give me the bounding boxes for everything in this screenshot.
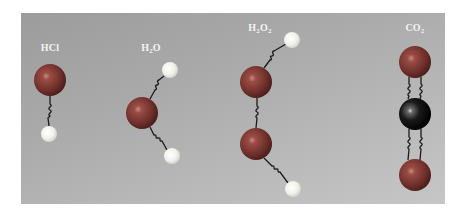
chlorine-atom [34, 64, 66, 96]
bond-spring-icon [408, 129, 410, 160]
bond-spring-icon [408, 77, 410, 99]
bond-spring-icon [48, 96, 51, 126]
bond-spring-icon [264, 44, 286, 68]
molecule-hcl [34, 64, 66, 142]
label-hcl: HCl [41, 42, 59, 53]
molecule-scene [0, 0, 468, 213]
label-text: HCl [41, 42, 59, 53]
bond-spring-icon [420, 129, 422, 160]
oxygen-atom [240, 66, 272, 98]
bond-spring-icon [256, 98, 258, 128]
oxygen-atom [240, 128, 272, 160]
hydrogen-atom [284, 32, 300, 48]
label-subscript: 2 [421, 27, 425, 35]
bond-spring-icon [150, 76, 164, 99]
label-co2: CO2 [405, 22, 424, 33]
label-text: H [248, 22, 256, 33]
molecule-h2o2 [240, 32, 301, 197]
label-text: CO [405, 22, 420, 33]
label-text: O [260, 22, 268, 33]
hydrogen-atom [162, 62, 178, 78]
oxygen-atom [399, 46, 431, 78]
label-text: H [141, 42, 149, 53]
oxygen-atom [126, 97, 158, 129]
bond-spring-icon [150, 127, 167, 150]
hydrogen-atom [164, 148, 180, 164]
bond-spring-icon [264, 158, 288, 183]
hydrogen-atom [285, 181, 301, 197]
molecule-co2 [399, 46, 431, 191]
hydrogen-atom [41, 126, 57, 142]
carbon-atom [399, 98, 431, 130]
label-subscript: 2 [268, 27, 272, 35]
label-h2o2: H2O2 [248, 22, 271, 33]
label-h2o: H2O [141, 42, 161, 53]
bond-spring-icon [420, 77, 422, 99]
molecule-h2o [126, 62, 180, 164]
oxygen-atom [399, 159, 431, 191]
label-text: O [153, 42, 161, 53]
